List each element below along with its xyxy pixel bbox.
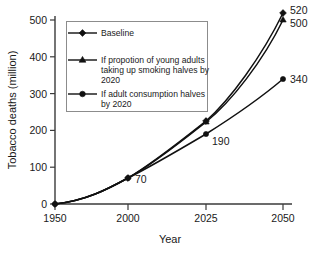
annotation-500: 500 [290, 17, 308, 29]
x-tick-label-2050: 2050 [271, 212, 295, 224]
annotation-520: 520 [290, 4, 308, 16]
x-axis [55, 204, 292, 210]
y-tick-label-400: 400 [29, 51, 47, 63]
marker-adult-2025 [203, 131, 208, 136]
legend-label-adult-consumption-line2: by 2020 [101, 99, 132, 109]
chart-legend: Baseline If propotion of young adults ta… [67, 22, 210, 112]
x-axis-title: Year [159, 233, 182, 245]
y-axis [50, 16, 55, 204]
marker-adult-2000 [125, 175, 130, 180]
marker-adult-1950 [52, 201, 57, 206]
y-tick-label-0: 0 [41, 198, 47, 210]
x-tick-label-2000: 2000 [116, 212, 140, 224]
annotation-70: 70 [135, 173, 147, 185]
marker-adult-2050 [280, 76, 285, 81]
legend-label-baseline: Baseline [101, 28, 134, 38]
x-tick-label-1950: 1950 [43, 212, 67, 224]
y-tick-label-500: 500 [29, 14, 47, 26]
y-tick-label-300: 300 [29, 88, 47, 100]
y-tick-label-200: 200 [29, 124, 47, 136]
legend-label-adult-consumption-line1: If adult consumption halves [101, 89, 205, 99]
chart-canvas: 500 400 300 200 100 0 1950 2000 2025 205… [0, 0, 309, 262]
y-tick-label-100: 100 [29, 161, 47, 173]
x-tick-label-2025: 2025 [194, 212, 218, 224]
y-axis-title: Tobacco deaths (million) [6, 51, 18, 170]
legend-label-young-adults-line3: 2020 [101, 75, 120, 85]
annotation-190: 190 [212, 135, 230, 147]
circle-marker-icon [80, 91, 86, 97]
annotation-340: 340 [290, 73, 308, 85]
legend-label-young-adults-line2: taking up smoking halves by [101, 65, 210, 75]
legend-label-young-adults-line1: If propotion of young adults [101, 55, 205, 65]
tobacco-deaths-line-chart: 500 400 300 200 100 0 1950 2000 2025 205… [0, 0, 309, 262]
marker-baseline-2050 [280, 10, 287, 17]
